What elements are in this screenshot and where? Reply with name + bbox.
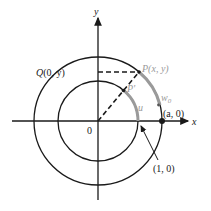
point-Q-label: Q(0, y) — [36, 67, 65, 79]
point-P-label: P(x, y) — [141, 63, 169, 75]
point-P-prime — [122, 89, 126, 93]
arc-w0-label: w0 — [161, 92, 172, 105]
arc-u — [124, 90, 138, 121]
point-P — [137, 70, 141, 74]
pointer-arrow-1-0 — [141, 126, 158, 160]
point-P-prime-label: P' — [126, 83, 136, 94]
point-a0-label: (a, 0) — [163, 108, 184, 120]
x-axis-label: x — [191, 116, 197, 127]
unit-circle-diagram: y x 0 Q(0, y) P(x, y) P' u w0 (a, 0) (1,… — [0, 0, 211, 211]
origin-label: 0 — [87, 125, 92, 136]
arc-w0 — [139, 72, 160, 105]
point-1-0-label: (1, 0) — [153, 163, 175, 175]
dashed-line-OP — [98, 72, 139, 121]
y-axis-label: y — [93, 6, 99, 17]
arc-u-label: u — [138, 102, 143, 113]
point-w0-end — [157, 104, 160, 107]
